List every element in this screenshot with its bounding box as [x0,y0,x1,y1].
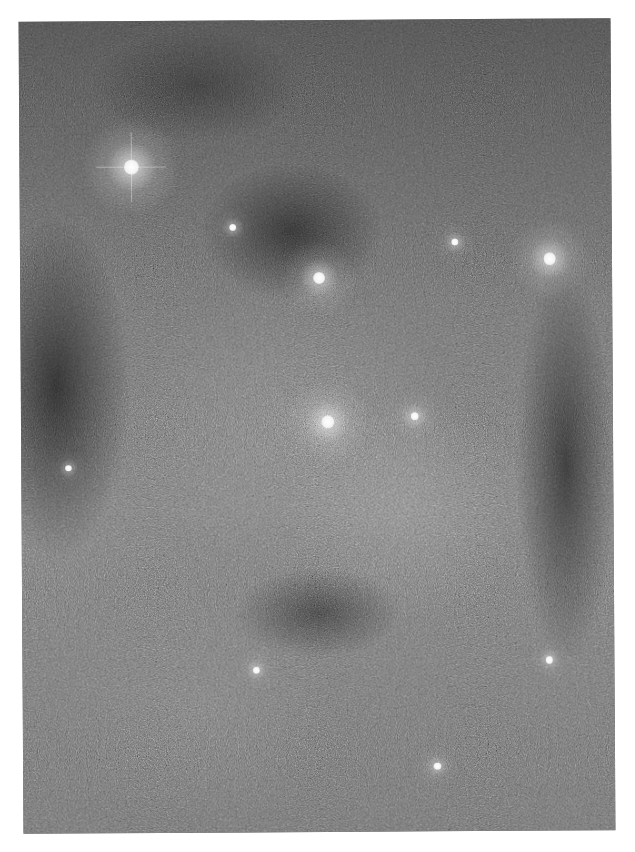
star-upper-center [313,272,325,284]
star-field-photo [19,18,616,834]
star-speckle [19,18,616,834]
star-right [543,253,556,266]
star-faint-6 [65,465,72,472]
